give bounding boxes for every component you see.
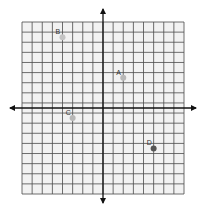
x-axis-right-arrow-icon: [191, 105, 197, 111]
point-label-a: A: [116, 69, 121, 76]
coordinate-plane: ABCD: [0, 0, 207, 212]
y-axis-down-arrow-icon: [100, 198, 106, 204]
point-b: [60, 34, 66, 40]
point-label-b: B: [56, 28, 61, 35]
y-axis-up-arrow-icon: [100, 8, 106, 14]
point-a: [120, 75, 126, 81]
point-label-d: D: [147, 139, 152, 146]
x-axis-left-arrow-icon: [9, 105, 15, 111]
point-label-c: C: [66, 109, 71, 116]
